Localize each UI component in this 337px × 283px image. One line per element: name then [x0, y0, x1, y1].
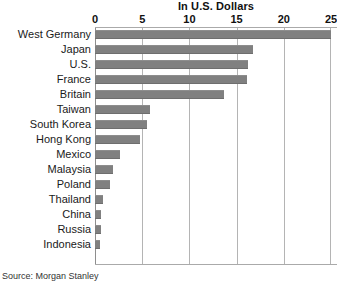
x-axis-tick-labels: 0510152025 — [0, 13, 337, 26]
x-tick-label-15: 15 — [230, 13, 242, 25]
chart-row: West Germany — [0, 27, 337, 42]
chart-row: Indonesia — [0, 237, 337, 252]
bar-china — [95, 210, 101, 219]
category-label-taiwan: Taiwan — [3, 102, 91, 116]
bar-indonesia — [95, 240, 100, 249]
bar-west-germany — [95, 30, 331, 39]
bar-britain — [95, 90, 224, 99]
category-label-china: China — [3, 207, 91, 221]
chart-row: Britain — [0, 87, 337, 102]
x-tick-label-0: 0 — [92, 13, 98, 25]
category-label-malaysia: Malaysia — [3, 162, 91, 176]
bar-poland — [95, 180, 110, 189]
bar-chart: In U.S. Dollars 0510152025 West GermanyJ… — [0, 0, 337, 283]
bar-mexico — [95, 150, 120, 159]
category-label-japan: Japan — [3, 42, 91, 56]
bar-russia — [95, 225, 101, 234]
bar-hong-kong — [95, 135, 140, 144]
bar-taiwan — [95, 105, 150, 114]
bar-france — [95, 75, 247, 84]
chart-row: France — [0, 72, 337, 87]
category-label-france: France — [3, 72, 91, 86]
chart-row: Mexico — [0, 147, 337, 162]
chart-row: Russia — [0, 222, 337, 237]
chart-row: Thailand — [0, 192, 337, 207]
category-label-poland: Poland — [3, 177, 91, 191]
chart-row: U.S. — [0, 57, 337, 72]
category-label-russia: Russia — [3, 222, 91, 236]
chart-row: Japan — [0, 42, 337, 57]
chart-row: Hong Kong — [0, 132, 337, 147]
category-label-west-germany: West Germany — [3, 27, 91, 41]
category-label-britain: Britain — [3, 87, 91, 101]
bar-japan — [95, 45, 253, 54]
category-label-u-s-: U.S. — [3, 57, 91, 71]
x-tick-label-25: 25 — [325, 13, 337, 25]
chart-row: Malaysia — [0, 162, 337, 177]
bar-u-s- — [95, 60, 248, 69]
x-tick-label-10: 10 — [183, 13, 195, 25]
chart-row: Poland — [0, 177, 337, 192]
chart-row: China — [0, 207, 337, 222]
source-note: Source: Morgan Stanley — [2, 271, 99, 282]
category-label-mexico: Mexico — [3, 147, 91, 161]
x-tick-label-5: 5 — [139, 13, 145, 25]
category-label-hong-kong: Hong Kong — [3, 132, 91, 146]
chart-row: South Korea — [0, 117, 337, 132]
chart-row: Taiwan — [0, 102, 337, 117]
category-label-indonesia: Indonesia — [3, 237, 91, 251]
category-label-thailand: Thailand — [3, 192, 91, 206]
chart-rows: West GermanyJapanU.S.FranceBritainTaiwan… — [0, 27, 337, 265]
category-label-south-korea: South Korea — [3, 117, 91, 131]
x-tick-label-20: 20 — [278, 13, 290, 25]
bar-thailand — [95, 195, 103, 204]
bar-south-korea — [95, 120, 147, 129]
chart-title: In U.S. Dollars — [95, 0, 337, 13]
bar-malaysia — [95, 165, 113, 174]
